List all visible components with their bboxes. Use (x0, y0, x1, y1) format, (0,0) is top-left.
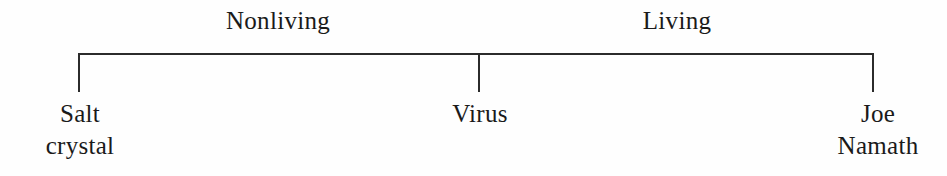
endpoint-line-1: Joe (838, 98, 919, 130)
endpoint-label-joe-namath: Joe Namath (838, 98, 919, 162)
endpoint-label-virus: Virus (452, 98, 508, 130)
endpoint-line-1: Salt (46, 98, 115, 130)
category-label-nonliving: Nonliving (226, 6, 330, 36)
diagram-canvas: Nonliving Living Salt crystal Virus Joe … (0, 0, 947, 176)
continuum-scale-rule (0, 0, 947, 176)
endpoint-line-1: Virus (452, 98, 508, 130)
endpoint-line-2: Namath (838, 130, 919, 162)
category-label-living: Living (643, 6, 711, 36)
endpoint-line-2: crystal (46, 130, 115, 162)
endpoint-label-salt-crystal: Salt crystal (46, 98, 115, 162)
